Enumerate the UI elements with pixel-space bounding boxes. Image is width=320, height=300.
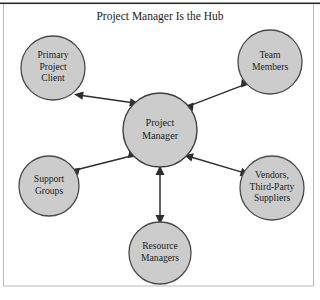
node-team-members[interactable]: Team Members bbox=[238, 30, 302, 94]
node-label-line-3: Client bbox=[41, 72, 65, 83]
arrowhead-toward-node bbox=[74, 92, 84, 100]
node-support-groups[interactable]: Support Groups bbox=[19, 156, 79, 216]
node-label-line-1: Team bbox=[259, 49, 281, 60]
node-label-line-2: Members bbox=[252, 61, 289, 72]
node-label-line-2: Third-Party bbox=[250, 181, 295, 192]
connector-hub-to-team-members bbox=[184, 79, 250, 111]
connector-hub-to-vendors bbox=[184, 153, 250, 176]
node-label-line-3: Suppliers bbox=[254, 192, 291, 203]
node-label-line-1: Primary bbox=[38, 49, 69, 60]
connector-hub-to-resource-managers bbox=[156, 166, 165, 225]
node-label-line-1: Resource bbox=[142, 240, 178, 251]
connector-hub-to-primary-project-client bbox=[74, 92, 139, 107]
top-rule bbox=[0, 3, 320, 5]
figure-title: Project Manager Is the Hub bbox=[96, 10, 223, 23]
node-label-line-2: Managers bbox=[141, 252, 179, 263]
hub-label-line-2: Manager bbox=[142, 130, 179, 141]
node-label-line-2: Project bbox=[39, 61, 67, 72]
node-label-line-1: Support bbox=[34, 173, 65, 184]
figure-container: Project Manager Is the Hub bbox=[0, 0, 320, 300]
node-vendors-third-party-suppliers[interactable]: Vendors, Third-Party Suppliers bbox=[240, 156, 304, 220]
hub-and-spoke-diagram: Project Manager Is the Hub bbox=[0, 0, 320, 300]
node-primary-project-client[interactable]: Primary Project Client bbox=[21, 36, 85, 100]
hub-label-line-1: Project bbox=[146, 117, 175, 128]
node-project-manager-hub[interactable]: Project Manager bbox=[123, 93, 197, 167]
node-label-line-1: Vendors, bbox=[255, 169, 289, 180]
node-resource-managers[interactable]: Resource Managers bbox=[129, 222, 191, 284]
connector-hub-to-support-groups bbox=[70, 150, 137, 175]
node-label-line-2: Groups bbox=[35, 185, 64, 196]
